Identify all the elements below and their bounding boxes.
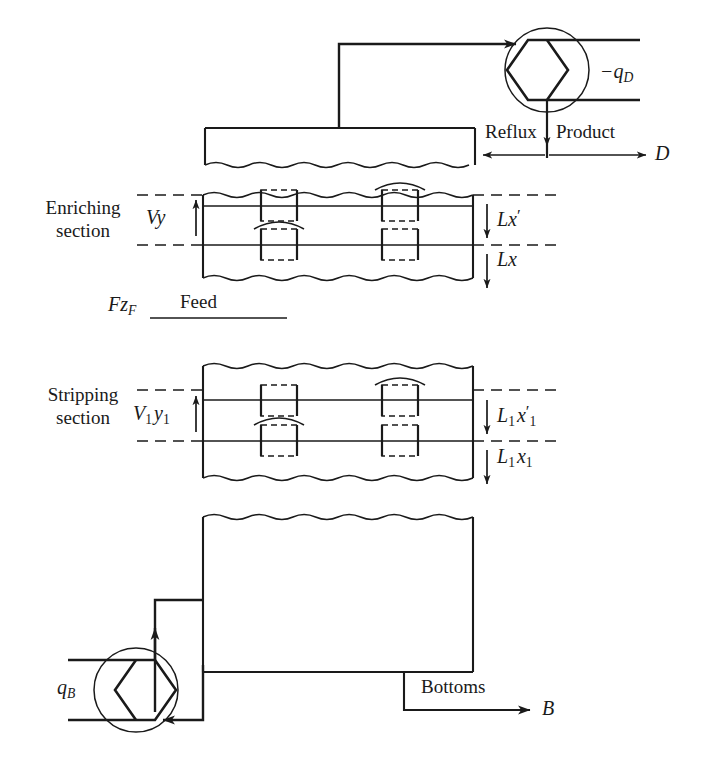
enriching-section-caption-line1: Enriching [18, 196, 148, 219]
feed-label: Feed [180, 291, 217, 313]
reflux-accumulator [205, 128, 475, 168]
enriching-tray-upper-caps [261, 183, 425, 221]
diagram-canvas: −qD Reflux Product D Enriching section V… [0, 0, 707, 776]
stripping-section-shell [203, 364, 473, 481]
bottoms-label: Bottoms [421, 676, 485, 698]
reflux-label: Reflux [485, 121, 537, 143]
product-label: Product [556, 121, 615, 143]
distillate-label: D [655, 142, 669, 165]
stripping-tray-upper-caps [261, 378, 425, 416]
stripping-section-caption: Stripping section [18, 383, 148, 429]
reboiler-liquid-feed [163, 665, 203, 720]
enriching-flow-arrows [196, 200, 487, 288]
reflux-product-split [483, 146, 646, 158]
stripping-flow-arrows [196, 396, 487, 484]
stripping-section-caption-line2: section [18, 406, 148, 429]
reboiler-unit [68, 648, 178, 732]
feed-rate-label: FzF [108, 293, 136, 319]
stripping-liquid-prime-label: L1x′1 [497, 402, 536, 430]
enriching-section-shell [203, 193, 473, 281]
enriching-section-caption-line2: section [18, 219, 148, 242]
reboiler-duty-label: qB [57, 676, 75, 702]
reboiler-vapor-return [155, 600, 203, 712]
stripping-vapor-label: V1y1 [133, 402, 170, 428]
enriching-tray-lower-caps [254, 222, 418, 260]
overhead-vapor-line [339, 44, 516, 128]
enriching-liquid-label: Lx [497, 248, 517, 271]
condenser-duty-label: −qD [600, 60, 633, 86]
enriching-liquid-prime-label: Lx′ [497, 206, 521, 231]
stripping-tray-lower-caps [254, 418, 418, 456]
column-bottom-sump [203, 515, 473, 673]
enriching-vapor-label: Vy [146, 206, 165, 229]
enriching-section-caption: Enriching section [18, 196, 148, 242]
stripping-section-caption-line1: Stripping [18, 383, 148, 406]
stripping-liquid-label: L1x1 [497, 445, 533, 471]
bottoms-stream-label: B [542, 697, 554, 720]
